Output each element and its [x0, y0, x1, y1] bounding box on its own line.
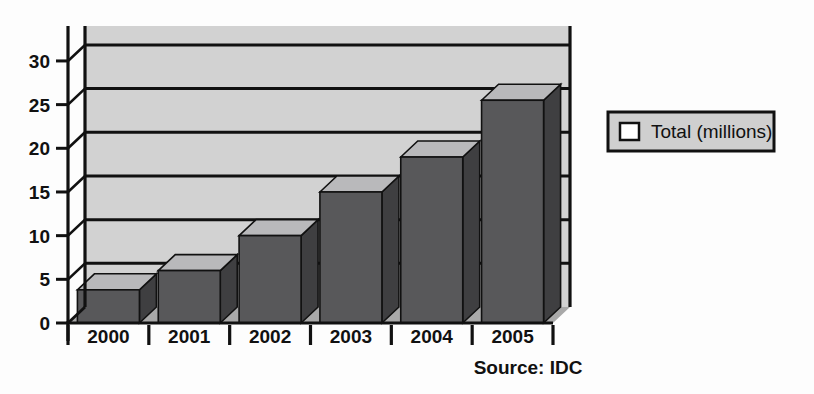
- bar-front-face: [482, 100, 544, 323]
- bar-front-face: [401, 157, 463, 323]
- bar-side-face: [301, 220, 318, 323]
- bar-2000[interactable]: [77, 274, 156, 323]
- y-tick-label: 30: [29, 51, 50, 72]
- y-tick-label: 0: [39, 313, 50, 334]
- bar-side-face: [382, 176, 399, 323]
- bar-2005[interactable]: [482, 84, 561, 323]
- y-tick-label: 20: [29, 138, 50, 159]
- bar-front-face: [77, 290, 139, 323]
- x-tick-label-2002: 2002: [249, 326, 291, 347]
- x-tick-label-2005: 2005: [491, 326, 534, 347]
- bar-front-face: [239, 236, 301, 323]
- bar-front-face: [158, 271, 220, 323]
- chart-figure: 051015202530 200020012002200320042005 To…: [0, 0, 814, 394]
- y-tick-label: 25: [29, 95, 51, 116]
- bar-2001[interactable]: [158, 255, 237, 323]
- x-tick-label-2004: 2004: [411, 326, 454, 347]
- x-tick-label-2000: 2000: [87, 326, 129, 347]
- y-tick-label: 10: [29, 226, 50, 247]
- bar-front-face: [320, 192, 382, 323]
- legend-swatch-total: [620, 123, 639, 140]
- bar-side-face: [544, 84, 561, 323]
- bar-2002[interactable]: [239, 220, 318, 323]
- x-tick-label-2001: 2001: [168, 326, 211, 347]
- bar-side-face: [463, 141, 480, 323]
- chart-legend[interactable]: Total (millions): [608, 112, 774, 151]
- y-tick-label: 5: [39, 269, 50, 290]
- bar-2004[interactable]: [401, 141, 480, 323]
- source-note: Source: IDC: [474, 357, 583, 378]
- legend-label-total: Total (millions): [651, 121, 772, 142]
- bar-chart-svg: 051015202530 200020012002200320042005 To…: [0, 0, 814, 394]
- x-tick-label-2003: 2003: [330, 326, 372, 347]
- y-tick-label: 15: [29, 182, 51, 203]
- bar-2003[interactable]: [320, 176, 399, 323]
